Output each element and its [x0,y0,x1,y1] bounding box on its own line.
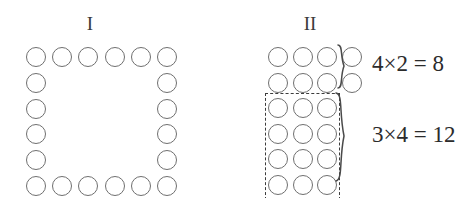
ring-circle [52,176,72,196]
ring-circle [131,176,151,196]
ring-circle [52,47,72,67]
equation-bottom: 3×4 = 12 [372,123,455,146]
bottom-group-circle [293,149,313,169]
top-group-circle [268,73,288,93]
ring-circle [157,150,177,170]
ring-circle [26,150,46,170]
top-group-circle [293,73,313,93]
top-group-circle [268,47,288,67]
curly-brace-top-icon [336,44,350,90]
bottom-group-circle [293,175,313,195]
ring-circle [78,176,98,196]
ring-circle [26,73,46,93]
ring-circle [157,73,177,93]
ring-circle [26,124,46,144]
figure-one-label: I [60,14,120,33]
ring-circle [157,176,177,196]
bottom-group-circle [293,124,313,144]
equation-top: 4×2 = 8 [372,52,444,75]
ring-circle [26,176,46,196]
ring-circle [157,47,177,67]
bottom-group-circle [268,175,288,195]
figure-root: I II 4×2 = 8 3×4 = 12 [0,0,471,198]
ring-circle [157,99,177,119]
ring-circle [26,99,46,119]
top-group-circle [317,73,337,93]
bottom-group-circle [268,98,288,118]
bottom-group-circle [268,124,288,144]
curly-brace-bottom-icon [334,92,350,182]
figure-two-label: II [280,14,340,33]
top-group-circle [293,47,313,67]
ring-circle [105,176,125,196]
ring-circle [78,47,98,67]
ring-circle [26,47,46,67]
top-group-circle [317,47,337,67]
ring-circle [131,47,151,67]
ring-circle [105,47,125,67]
ring-circle [157,124,177,144]
bottom-group-circle [293,98,313,118]
